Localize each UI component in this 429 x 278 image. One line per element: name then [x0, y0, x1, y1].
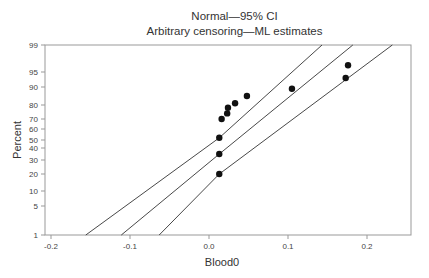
y-tick-label: 5 [34, 202, 39, 211]
y-axis: 151020304050607080909599 [29, 41, 45, 240]
x-axis: -0.2-0.10.00.10.2 [44, 235, 373, 251]
x-tick-label: 0.1 [282, 242, 294, 251]
y-tick-label: 80 [29, 101, 38, 110]
y-tick-label: 99 [29, 41, 38, 50]
y-tick-label: 1 [34, 231, 39, 240]
y-tick-label: 10 [29, 187, 38, 196]
data-point [345, 62, 351, 68]
x-tick-label: -0.1 [123, 242, 137, 251]
y-tick-label: 20 [29, 170, 38, 179]
x-tick-label: 0.2 [361, 242, 373, 251]
y-axis-label: Percent [11, 121, 23, 159]
data-point [244, 93, 250, 99]
data-point [216, 151, 222, 157]
plot-frame [45, 45, 411, 235]
y-tick-label: 90 [29, 83, 38, 92]
ml-fit-line [121, 45, 352, 235]
x-tick-label: -0.2 [44, 242, 58, 251]
x-axis-label: Blood0 [205, 256, 239, 268]
y-tick-label: 70 [29, 115, 38, 124]
y-tick-label: 95 [29, 68, 38, 77]
probability-plot: -0.2-0.10.00.10.2 1510203040506070809095… [0, 0, 429, 278]
data-point [232, 100, 238, 106]
data-point [224, 110, 230, 116]
data-point [289, 86, 295, 92]
lower-95-ci-line [86, 45, 322, 235]
data-point [216, 135, 222, 141]
x-tick-label: 0.0 [203, 242, 215, 251]
data-point [216, 171, 222, 177]
y-tick-label: 40 [29, 144, 38, 153]
data-point [218, 116, 224, 122]
y-tick-label: 60 [29, 125, 38, 134]
fit-lines [86, 45, 393, 235]
y-tick-label: 30 [29, 156, 38, 165]
data-point [225, 105, 231, 111]
data-point [342, 75, 348, 81]
y-tick-label: 50 [29, 136, 38, 145]
upper-95-ci-line [159, 45, 392, 235]
